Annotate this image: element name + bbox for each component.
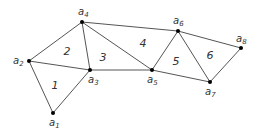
face-label-4: 4 <box>140 37 147 50</box>
vertex-a6 <box>176 29 180 33</box>
vertex-label-a5: a5 <box>147 74 158 87</box>
vertex-a2 <box>27 59 31 63</box>
vertex-a5 <box>150 68 154 72</box>
vertex-a8 <box>239 46 243 50</box>
triangulation-diagram: 123456 a1a2a3a4a5a6a7a8 <box>0 0 261 131</box>
vertex-label-a7: a7 <box>205 86 216 99</box>
face-labels-group: 123456 <box>52 37 214 92</box>
vertex-label-a8: a8 <box>236 33 247 46</box>
edges-group <box>29 22 241 113</box>
vertex-label-a3: a3 <box>88 74 99 87</box>
vertex-label-a4: a4 <box>78 6 89 19</box>
edge-a2-a3 <box>29 61 90 70</box>
vertices-group <box>27 20 243 115</box>
vertex-a3 <box>88 68 92 72</box>
vertex-label-a2: a2 <box>13 55 24 68</box>
edge-a2-a4 <box>29 22 82 61</box>
vertex-a7 <box>208 80 212 84</box>
vertex-labels-group: a1a2a3a4a5a6a7a8 <box>13 6 247 130</box>
face-label-3: 3 <box>100 51 107 64</box>
edge-a1-a3 <box>53 70 90 113</box>
face-label-6: 6 <box>207 49 214 62</box>
vertex-label-a1: a1 <box>49 117 60 130</box>
vertex-label-a6: a6 <box>173 15 184 28</box>
edge-a4-a3 <box>82 22 90 70</box>
edge-a5-a7 <box>152 70 210 82</box>
edge-a8-a7 <box>210 48 241 82</box>
face-label-1: 1 <box>52 79 59 92</box>
vertex-a4 <box>80 20 84 24</box>
face-label-5: 5 <box>173 55 180 68</box>
edge-a1-a2 <box>29 61 53 113</box>
vertex-a1 <box>51 111 55 115</box>
face-label-2: 2 <box>64 45 71 58</box>
edge-a4-a6 <box>82 22 178 31</box>
